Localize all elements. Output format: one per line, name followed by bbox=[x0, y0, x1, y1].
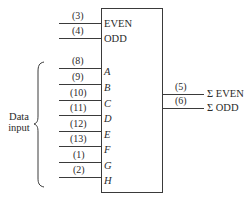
data-input-label: Data input bbox=[4, 111, 34, 133]
curly-brace-icon bbox=[0, 0, 251, 206]
data-input-label-line1: Data bbox=[4, 111, 34, 122]
data-input-label-line2: input bbox=[4, 122, 34, 133]
